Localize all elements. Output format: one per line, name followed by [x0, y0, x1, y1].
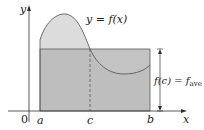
point-a-label: a [37, 115, 44, 126]
average-label-sub: ave [190, 80, 202, 88]
point-b-label: b [147, 114, 154, 125]
curve-label: y = f(x) [86, 14, 127, 25]
curve-label-lhs: y = [86, 13, 108, 26]
y-axis-label: y [20, 4, 26, 15]
arrow-down-icon [158, 106, 162, 111]
curve-label-arg: (x) [113, 13, 128, 26]
x-axis-label: x [183, 114, 189, 125]
y-axis-arrow-icon [27, 5, 31, 11]
origin-label: 0 [21, 114, 28, 125]
average-label-arg: (c) = [158, 75, 186, 86]
arrow-up-icon [158, 49, 162, 54]
point-c-label: c [87, 115, 93, 126]
average-label: f(c) = fave [154, 76, 202, 88]
